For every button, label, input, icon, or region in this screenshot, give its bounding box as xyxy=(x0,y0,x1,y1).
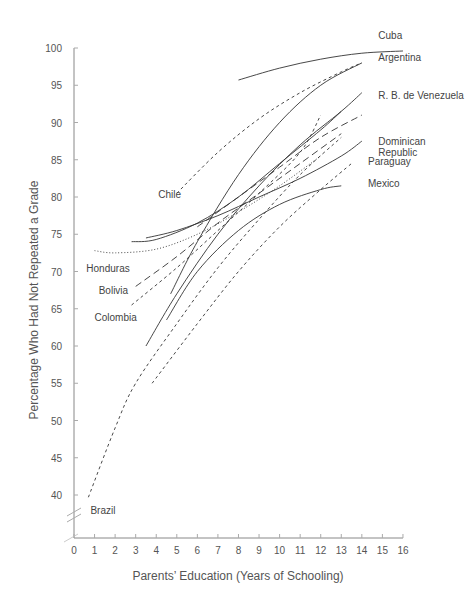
line-chart: 4045505560657075808590951000123456789101… xyxy=(0,0,465,599)
x-tick-label: 1 xyxy=(92,545,98,556)
y-tick-label: 90 xyxy=(51,118,63,129)
x-tick-label: 16 xyxy=(397,545,409,556)
series-line-bolivia xyxy=(136,134,342,287)
series-label-dominican-republic: DominicanRepublic xyxy=(378,136,425,158)
x-tick-label: 8 xyxy=(236,545,242,556)
y-tick-label: 60 xyxy=(51,341,63,352)
series-label-bolivia: Bolivia xyxy=(99,285,129,296)
x-tick-label: 10 xyxy=(274,545,286,556)
x-tick-label: 6 xyxy=(195,545,201,556)
x-tick-label: 13 xyxy=(336,545,348,556)
series-line-mexico xyxy=(167,186,342,320)
axes: 4045505560657075808590951000123456789101… xyxy=(45,43,409,556)
series-label-cuba: Cuba xyxy=(378,30,402,41)
x-tick-label: 0 xyxy=(71,545,77,556)
series-lines xyxy=(88,51,403,497)
y-tick-label: 40 xyxy=(51,490,63,501)
x-tick-label: 11 xyxy=(295,545,306,556)
series-line-honduras xyxy=(95,156,321,253)
y-tick-label: 80 xyxy=(51,192,63,203)
series-line-unlabeled-solid-upper xyxy=(132,111,342,241)
x-tick-label: 9 xyxy=(256,545,262,556)
series-label-argentina: Argentina xyxy=(378,52,421,63)
series-label-paraguay: Paraguay xyxy=(368,156,411,167)
series-label-chile: Chile xyxy=(158,189,181,200)
x-tick-label: 4 xyxy=(153,545,159,556)
y-axis-title: Percentage Who Had Not Repeated a Grade xyxy=(27,180,41,419)
series-line-colombia xyxy=(132,115,321,305)
series-label-brazil: Brazil xyxy=(90,505,115,516)
x-tick-label: 7 xyxy=(215,545,221,556)
x-tick-label: 3 xyxy=(133,545,139,556)
series-label-colombia: Colombia xyxy=(95,312,138,323)
series-label-r-b-de-venezuela: R. B. de Venezuela xyxy=(378,90,464,101)
y-tick-label: 100 xyxy=(45,43,62,54)
y-tick-label: 85 xyxy=(51,155,63,166)
x-tick-label: 5 xyxy=(174,545,180,556)
series-line-paraguay xyxy=(152,163,351,383)
y-tick-label: 95 xyxy=(51,80,63,91)
y-tick-label: 70 xyxy=(51,267,63,278)
x-tick-label: 15 xyxy=(377,545,389,556)
series-line-chile xyxy=(177,63,362,193)
y-tick-label: 65 xyxy=(51,304,63,315)
series-label-mexico: Mexico xyxy=(368,178,400,189)
y-tick-label: 50 xyxy=(51,416,63,427)
series-label-honduras: Honduras xyxy=(86,263,129,274)
series-labels: CubaArgentinaChileR. B. de VenezuelaDomi… xyxy=(86,30,464,516)
series-line-unlabeled-long-dash-upper xyxy=(197,115,361,227)
x-tick-label: 12 xyxy=(315,545,327,556)
x-axis-title: Parents’ Education (Years of Schooling) xyxy=(132,569,343,583)
x-tick-label: 2 xyxy=(112,545,118,556)
y-tick-label: 45 xyxy=(51,453,63,464)
x-tick-label: 14 xyxy=(356,545,368,556)
y-tick-label: 55 xyxy=(51,378,63,389)
y-tick-label: 75 xyxy=(51,229,63,240)
